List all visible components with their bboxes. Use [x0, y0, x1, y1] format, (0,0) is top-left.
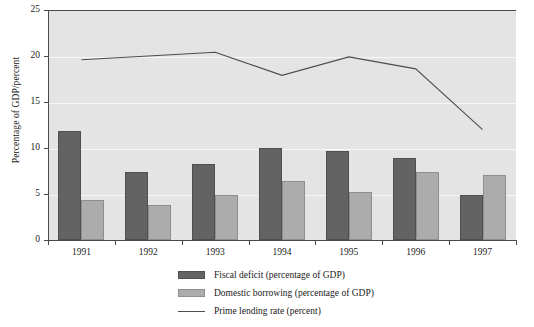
- x-tick-mark: [249, 240, 250, 245]
- legend-label: Fiscal deficit (percentage of GDP): [214, 270, 345, 280]
- legend-label: Prime lending rate (percent): [214, 306, 321, 316]
- x-tick-mark: [449, 240, 450, 245]
- line-swatch-icon: [178, 307, 205, 315]
- legend-label: Domestic borrowing (percentage of GDP): [214, 288, 374, 298]
- light-swatch-icon: [178, 289, 205, 297]
- x-tick-mark: [182, 240, 183, 245]
- x-tick-mark: [315, 240, 316, 245]
- x-tick-label: 1991: [51, 247, 111, 257]
- y-tick-label: 20: [0, 51, 40, 61]
- x-tick-mark: [48, 240, 49, 245]
- y-tick-label: 0: [0, 235, 40, 245]
- x-tick-mark: [516, 240, 517, 245]
- x-tick-label: 1994: [252, 247, 312, 257]
- chart-figure: Percentage of GDP/percent 0510152025 199…: [0, 0, 534, 327]
- legend-item: Prime lending rate (percent): [0, 302, 534, 320]
- x-tick-label: 1992: [118, 247, 178, 257]
- x-tick-label: 1996: [386, 247, 446, 257]
- legend-item: Fiscal deficit (percentage of GDP): [0, 266, 534, 284]
- prime-lending-rate-line: [48, 10, 516, 240]
- x-tick-mark: [382, 240, 383, 245]
- y-tick-label: 5: [0, 189, 40, 199]
- dark-swatch-icon: [178, 271, 205, 279]
- legend-item: Domestic borrowing (percentage of GDP): [0, 284, 534, 302]
- x-tick-label: 1997: [453, 247, 513, 257]
- x-tick-label: 1995: [319, 247, 379, 257]
- y-tick-label: 25: [0, 5, 40, 15]
- chart-legend: Fiscal deficit (percentage of GDP)Domest…: [0, 266, 534, 320]
- x-tick-label: 1993: [185, 247, 245, 257]
- x-axis-line: [48, 240, 517, 241]
- x-tick-mark: [115, 240, 116, 245]
- y-tick-label: 15: [0, 97, 40, 107]
- y-tick-label: 10: [0, 143, 40, 153]
- y-axis-title: Percentage of GDP/percent: [11, 20, 21, 200]
